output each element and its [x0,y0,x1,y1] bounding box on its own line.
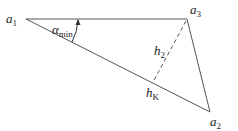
angle-label: αmin [52,22,73,39]
foot-label: hK [146,85,160,102]
vertex-a1-label: a1 [6,11,17,28]
edge-a3-a2 [187,19,210,112]
vertex-a2-label: a2 [210,114,221,131]
vertex-a3-label: a3 [190,2,202,19]
arrow-icon [76,19,81,25]
height-label: h2 [154,43,165,60]
triangle-diagram: a1 a3 a2 αmin h2 hK [0,0,238,131]
